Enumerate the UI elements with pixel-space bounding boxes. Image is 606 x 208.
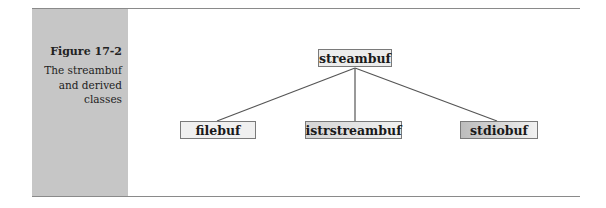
node-stdiobuf: stdiobuf (460, 121, 538, 139)
node-istrstreambuf: istrstreambuf (305, 121, 402, 139)
node-filebuf: filebuf (180, 121, 256, 139)
node-streambuf: streambuf (318, 49, 392, 67)
hierarchy-connectors (0, 0, 606, 208)
edge-streambuf-stdiobuf (355, 68, 497, 121)
edge-streambuf-filebuf (217, 68, 355, 121)
